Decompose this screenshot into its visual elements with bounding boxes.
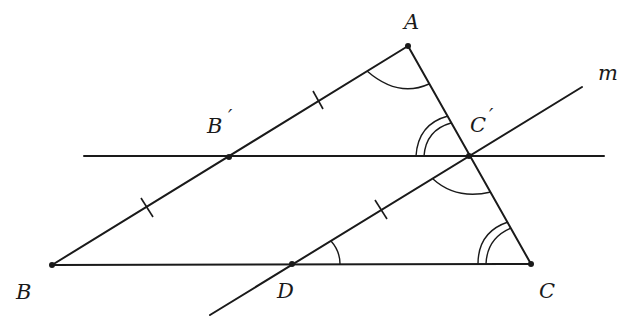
angle-arc-c-outer <box>478 222 508 264</box>
angle-arc-a <box>367 71 429 89</box>
label-line-m: m <box>598 61 618 85</box>
point-a <box>405 43 411 49</box>
point-b-prime <box>226 154 232 160</box>
line-m <box>210 87 582 315</box>
point-d <box>289 261 295 267</box>
point-c <box>528 261 534 267</box>
label-b: B <box>15 280 31 304</box>
angle-arc-c-prime-lower <box>433 179 491 194</box>
point-c-prime <box>466 153 472 159</box>
label-b-prime-mark: ′ <box>228 105 233 127</box>
label-c-prime: C <box>470 113 486 137</box>
tick-mark-ab-lower <box>141 198 153 217</box>
label-d: D <box>276 279 294 303</box>
angle-arc-c-prime-upper-inner <box>424 123 451 156</box>
label-c-prime-mark: ′ <box>489 104 494 126</box>
angle-arc-c-prime-upper-outer <box>416 116 448 156</box>
point-b <box>49 262 55 268</box>
angle-arc-d <box>331 241 340 264</box>
label-c: C <box>539 279 555 303</box>
label-a: A <box>402 10 419 34</box>
tick-mark-dc-prime <box>375 200 387 219</box>
geometry-diagram: A B C D B ′ C ′ m <box>0 0 632 329</box>
label-b-prime: B <box>206 114 222 138</box>
